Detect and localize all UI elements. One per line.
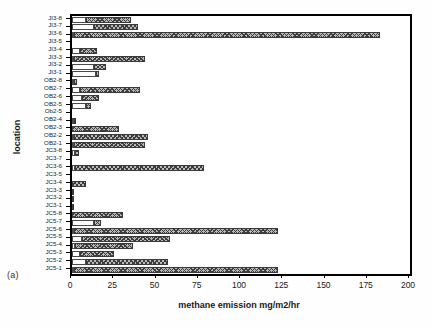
bar-row [72,55,410,63]
bar-segment-high [72,212,123,218]
y-tick-label: OB2-3 [44,124,62,130]
bar-segment-low [72,236,82,242]
bar-row [72,102,410,110]
bar-segment-high [72,196,74,202]
bar-segment-high [72,204,74,210]
bar-row [72,251,410,259]
x-tick-mark [366,274,367,278]
y-tick-label: JI3-5 [48,38,62,44]
bar-row [72,211,410,219]
bar-segment-low [72,259,86,265]
bar-row [72,141,410,149]
bar-row [72,86,410,94]
bar-row [72,266,410,274]
x-tick-mark [112,274,113,278]
plot-area [70,14,412,276]
bar-segment-high [72,189,74,195]
x-tick-label: 25 [108,280,117,290]
x-tick-mark [239,274,240,278]
x-tick-label: 175 [359,280,373,290]
bar-row [72,94,410,102]
bar-segment-low [72,48,80,54]
bar-row [72,180,410,188]
bar-segment-high [94,64,106,70]
y-tick-label: OB2-1 [44,140,62,146]
bar-segment-low [72,87,80,93]
bar-segment-high [75,243,132,249]
y-tick-label: JC5-6 [45,226,62,232]
y-tick-label: JC3-2 [45,194,62,200]
bar-row [72,39,410,47]
bar-row [72,188,410,196]
bar-segment-low [72,24,94,30]
y-tick-label: JI3-6 [48,30,62,36]
y-tick-label: JC5-1 [45,265,62,271]
x-tick-mark [324,274,325,278]
bar-row [72,16,410,24]
y-tick-label: JC3-3 [45,187,62,193]
y-tick-label: JC3-4 [45,179,62,185]
bar-row [72,71,410,79]
y-axis-tick-labels: JI3-8JI3-7JI3-6JI3-5JI3-4JI3-3JI3-2JI3-1… [0,14,66,272]
bar-segment-high [86,17,132,23]
x-tick-mark [70,274,71,278]
panel-label: (a) [7,270,19,280]
bar-row [72,118,410,126]
bar-row [72,219,410,227]
bar-segment-low [72,71,96,77]
bar-segment-high [96,71,99,77]
y-tick-label: OB2-2 [44,132,62,138]
bar-segment-high [72,181,86,187]
y-tick-label: JI3-7 [48,22,62,28]
bar-segment-high [74,267,278,273]
bar-row [72,32,410,40]
bar-segment-low [72,64,94,70]
y-tick-label: JC3-8 [45,147,62,153]
bar-segment-high [80,87,139,93]
bar-segment-low [72,17,86,23]
x-tick-label: 125 [274,280,288,290]
x-tick-label: 75 [192,280,201,290]
bar-row [72,165,410,173]
x-tick-label: 150 [316,280,330,290]
bar-row [72,204,410,212]
bar-segment-low [72,95,82,101]
bar-segment-high [74,56,145,62]
x-tick-label: 0 [68,280,73,290]
bar-segment-high [80,48,97,54]
y-tick-label: JC3-1 [45,202,62,208]
bar-segment-high [86,103,91,109]
x-tick-label: 200 [401,280,415,290]
y-tick-label: JI3-8 [48,15,62,21]
bar-segment-low [72,220,94,226]
chart-figure: location JI3-8JI3-7JI3-6JI3-5JI3-4JI3-3J… [0,0,433,330]
bar-segment-high [74,142,145,148]
bar-segment-high [82,95,99,101]
y-tick-label: Ob2-5 [45,108,62,114]
bar-row [72,243,410,251]
bar-segment-high [86,259,169,265]
bar-row [72,235,410,243]
bar-segment-high [74,79,77,85]
bar-segment-low [72,103,86,109]
bar-row [72,227,410,235]
y-tick-label: JC5-8 [45,210,62,216]
bar-segment-high [94,24,138,30]
x-tick-label: 100 [232,280,246,290]
y-tick-label: JC3-6 [45,163,62,169]
y-tick-label: JC5-5 [45,233,62,239]
y-tick-label: JI3-2 [48,61,62,67]
y-tick-label: JI3-4 [48,46,62,52]
x-tick-mark [197,274,198,278]
bar-segment-low [72,251,80,257]
x-tick-mark [281,274,282,278]
bar-segment-high [75,165,203,171]
y-tick-label: OB2-4 [44,116,62,122]
y-tick-label: JC3-5 [45,171,62,177]
y-tick-label: JC5-4 [45,241,62,247]
bar-segment-high [74,118,76,124]
y-tick-label: JI3-1 [48,69,62,75]
bar-segment-high [80,251,114,257]
bar-segment-high [94,220,101,226]
bar-row [72,47,410,55]
